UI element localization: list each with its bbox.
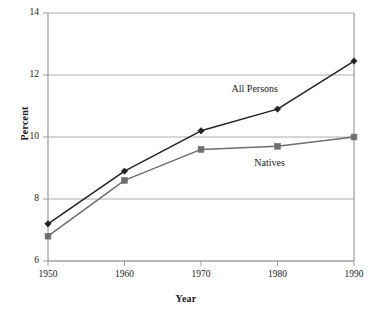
marker-square-1980 — [275, 143, 281, 149]
x-tick-label-1960: 1960 — [105, 269, 145, 279]
annotation-all-persons: All Persons — [232, 83, 278, 94]
marker-square-1990 — [351, 134, 357, 140]
marker-diamond-1970 — [198, 128, 204, 134]
y-tick-label-10: 10 — [17, 131, 39, 141]
y-tick-label-14: 14 — [17, 7, 39, 17]
y-tick-label-12: 12 — [17, 69, 39, 79]
gridlines-group — [48, 13, 354, 261]
x-tick-label-1980: 1980 — [258, 269, 298, 279]
series-natives — [45, 134, 357, 239]
line-chart-plot — [0, 0, 372, 313]
data-series-group — [45, 58, 357, 239]
x-tick-label-1950: 1950 — [28, 269, 68, 279]
x-tick-label-1970: 1970 — [181, 269, 221, 279]
x-axis-title: Year — [0, 293, 372, 304]
marker-square-1970 — [198, 147, 204, 153]
marker-square-1960 — [122, 178, 128, 184]
marker-square-1950 — [45, 233, 51, 239]
x-tick-label-1990: 1990 — [334, 269, 372, 279]
axis-ticks-group — [43, 13, 354, 266]
chart-container: Percent Year 68101214 195019601970198019… — [0, 0, 372, 313]
y-tick-label-8: 8 — [17, 193, 39, 203]
y-tick-label-6: 6 — [17, 255, 39, 265]
annotation-natives: Natives — [254, 157, 285, 168]
